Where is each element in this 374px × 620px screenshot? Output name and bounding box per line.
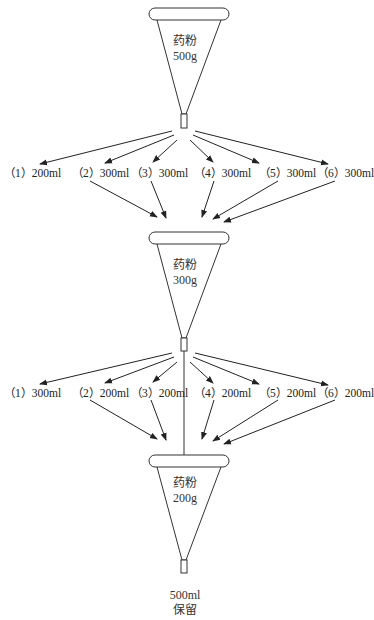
funnel-3-weight: 200g [155, 491, 215, 506]
funnel-1 [149, 8, 229, 128]
final-output-note: 保留 [155, 603, 215, 618]
stage1-fraction-3: （3）300ml [131, 168, 188, 180]
stage2-fraction-3: （3）200ml [131, 388, 188, 400]
stage1-in-arrows [90, 181, 335, 222]
stage2-fraction-4: （4）200ml [194, 388, 251, 400]
stage2-fraction-5: （5）200ml [259, 388, 316, 400]
funnel-2-material: 药粉 [155, 258, 215, 273]
stage1-fraction-4: （4）300ml [194, 168, 251, 180]
final-output-label: 500ml 保留 [155, 588, 215, 618]
funnel-2 [149, 232, 229, 351]
funnel-1-label: 药粉 500g [155, 34, 215, 64]
funnel-3-label: 药粉 200g [155, 476, 215, 506]
flow-diagram [0, 0, 374, 620]
final-output-volume: 500ml [155, 588, 215, 603]
stage2-fraction-1: （1）300ml [4, 388, 61, 400]
stage2-in-arrows [90, 400, 335, 444]
funnel-1-weight: 500g [155, 49, 215, 64]
stage1-fraction-1: （1）200ml [4, 168, 61, 180]
stage1-out-arrows [40, 131, 328, 164]
funnel-1-material: 药粉 [155, 34, 215, 49]
stage1-fraction-6: （6）300ml [317, 168, 374, 180]
funnel-2-weight: 300g [155, 273, 215, 288]
funnel-3 [149, 455, 229, 573]
stage2-fraction-6: （6）200ml [317, 388, 374, 400]
stage1-fraction-5: （5）300ml [259, 168, 316, 180]
funnel-3-material: 药粉 [155, 476, 215, 491]
stage2-fraction-2: （2）200ml [72, 388, 129, 400]
funnel-2-label: 药粉 300g [155, 258, 215, 288]
stage1-fraction-2: （2）300ml [72, 168, 129, 180]
